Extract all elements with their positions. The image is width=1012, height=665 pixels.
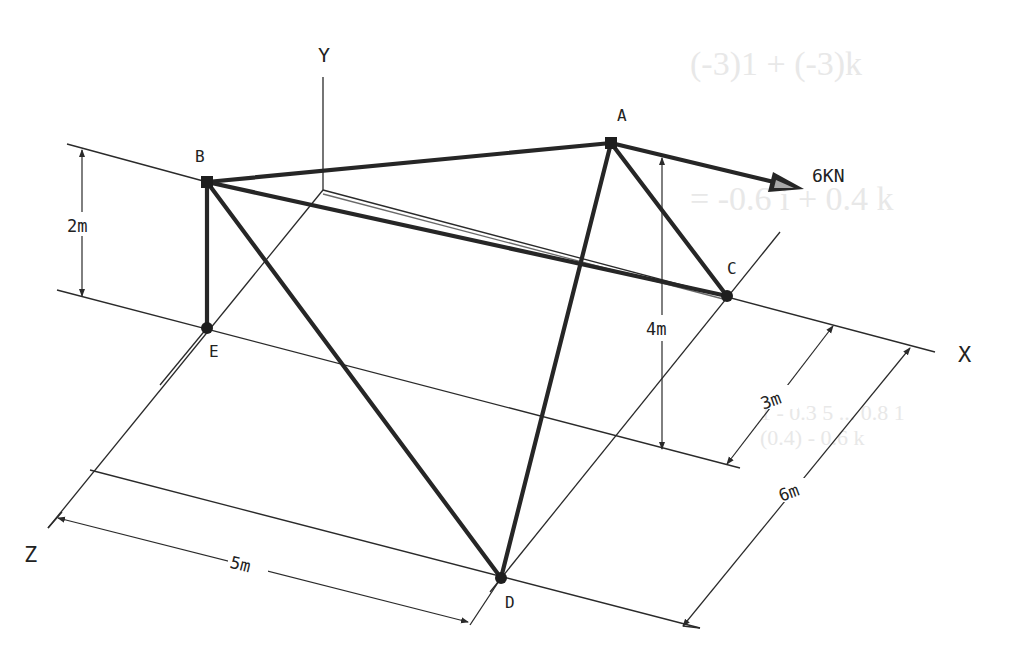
dim-4m-label: 4m [646,319,666,339]
joint-c [721,290,733,302]
x-axis-label: X [958,342,972,367]
joint-label-e: E [209,342,219,361]
member-bd [207,182,501,578]
dim-5m-tick-left [48,512,62,528]
member-ab [207,143,611,182]
c-z-line [490,232,780,592]
joint-e [201,322,213,334]
truss-members [207,143,727,578]
joint-label-d: D [505,593,515,612]
z-axis [48,190,323,528]
joints [201,137,733,584]
joint-label-b: B [195,147,205,166]
bc-projection-line [323,194,727,300]
member-ad [501,143,611,578]
dim-2m-label: 2m [67,216,87,236]
b-level-line [67,144,207,182]
joint-a [605,137,617,149]
y-axis-label: Y [318,43,330,67]
svg-text:(0.4) - 0.6 k: (0.4) - 0.6 k [760,425,864,450]
joint-label-c: C [727,259,737,278]
joint-b [201,176,213,188]
load-label: 6KN [812,165,845,186]
z-axis-label: Z [24,542,37,567]
svg-text:(-3)1 + (-3)k: (-3)1 + (-3)k [690,45,862,83]
e-z-line [160,328,207,385]
truss-diagram: (-3)1 + (-3)k = -0.6 i + 0.4 k 1 - 0.3 5… [0,0,1012,665]
joint-d [495,572,507,584]
joint-label-a: A [617,106,627,125]
d-z-extension [470,578,501,625]
